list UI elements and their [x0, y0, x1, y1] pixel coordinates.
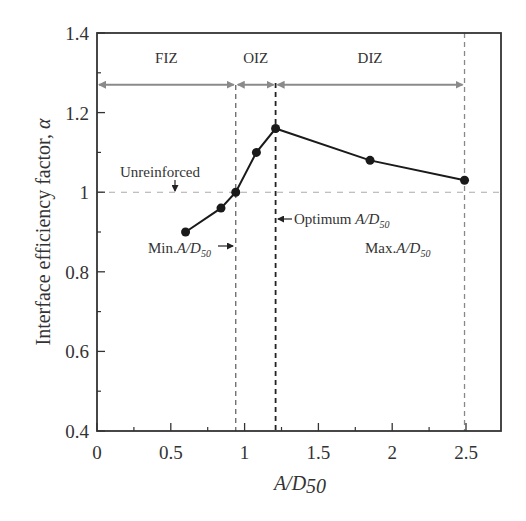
y-tick-label: 1 — [80, 182, 90, 203]
data-point — [181, 228, 190, 237]
data-point — [460, 176, 469, 185]
x-tick-label: 1.5 — [307, 442, 331, 463]
x-tick-label: 0 — [92, 442, 102, 463]
x-tick-label: 1 — [240, 442, 250, 463]
y-tick-label: 0.6 — [65, 341, 89, 362]
reference-lines — [97, 33, 501, 431]
annotation-unreinforced: Unreinforced — [120, 164, 200, 180]
plot-area-border — [97, 33, 501, 431]
y-tick-label: 0.4 — [65, 421, 89, 442]
zone-label-diz: DIZ — [358, 50, 383, 66]
data-point — [231, 188, 240, 197]
chart-svg: FIZOIZDIZ 00.511.522.5 0.40.60.811.21.4 … — [0, 0, 526, 521]
annotation-optimum: Optimum A/D50 — [294, 211, 389, 230]
y-tick-label: 1.4 — [65, 23, 89, 44]
zone-label-oiz: OIZ — [243, 50, 268, 66]
data-point — [252, 148, 261, 157]
annotation-min: Min.A/D50 — [148, 240, 211, 259]
y-axis: 0.40.60.811.21.4 — [65, 23, 105, 442]
x-axis: 00.511.522.5 — [92, 423, 478, 463]
y-tick-label: 1.2 — [65, 103, 89, 124]
zone-arrows: FIZOIZDIZ — [99, 50, 463, 85]
zone-label-fiz: FIZ — [155, 50, 178, 66]
x-tick-label: 0.5 — [159, 442, 183, 463]
annotation-max: Max.A/D50 — [365, 240, 430, 259]
x-axis-title: A/D50 — [272, 472, 326, 497]
data-point — [271, 124, 280, 133]
plot-frame — [97, 33, 501, 431]
x-tick-label: 2 — [387, 442, 397, 463]
y-tick-label: 0.8 — [65, 262, 89, 283]
data-point — [366, 156, 375, 165]
x-tick-label: 2.5 — [454, 442, 478, 463]
data-point — [216, 204, 225, 213]
y-axis-title: Interface efficiency factor, α — [32, 118, 55, 345]
